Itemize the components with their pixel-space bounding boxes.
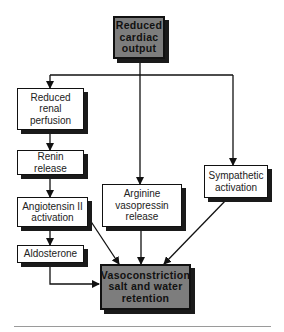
- node-angiotensin-ii-activation: Angiotensin II activation: [17, 197, 88, 227]
- node-arginine-vasopressin-release: Arginine vasopressin release: [102, 184, 182, 227]
- node-renin-release: Renin release: [17, 150, 84, 175]
- node-reduced-renal-perfusion: Reduced renal perfusion: [17, 88, 84, 130]
- bottom-divider: [14, 326, 271, 327]
- node-vasoconstriction-salt-water-retention: Vasoconstriction salt and water retentio…: [100, 264, 191, 310]
- node-sympathetic-activation: Sympathetic activation: [204, 165, 268, 198]
- node-reduced-cardiac-output: Reduced cardiac output: [113, 16, 165, 59]
- node-aldosterone: Aldosterone: [17, 245, 84, 263]
